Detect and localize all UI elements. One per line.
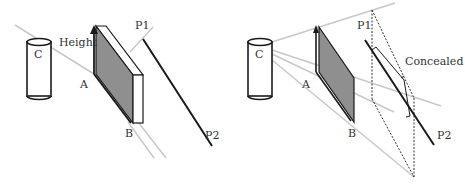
height-label: Height (59, 36, 98, 49)
p2-label: P2 (437, 129, 451, 142)
point-a-label: A (79, 78, 89, 91)
diagram-canvas: C Height A B P1 P2 (0, 0, 465, 188)
wall-panel (313, 25, 354, 122)
camera-label: C (34, 48, 42, 61)
p2-label: P2 (205, 129, 219, 142)
projection-lines (372, 10, 414, 177)
point-b-label: B (125, 127, 133, 140)
left-panel: C Height A B P1 P2 (15, 19, 219, 158)
wall-box (94, 26, 143, 123)
right-panel: C A B P1 P2 Concealed (248, 3, 463, 177)
point-b-label: B (348, 127, 356, 140)
point-a-label: A (301, 78, 311, 91)
p2-line (143, 39, 212, 146)
p1-label: P1 (357, 19, 371, 32)
concealed-label: Concealed (405, 55, 463, 68)
p1-label: P1 (135, 19, 149, 32)
ground-line-2 (138, 122, 166, 158)
sight-line-top (272, 3, 395, 42)
camera-label: C (255, 48, 263, 61)
